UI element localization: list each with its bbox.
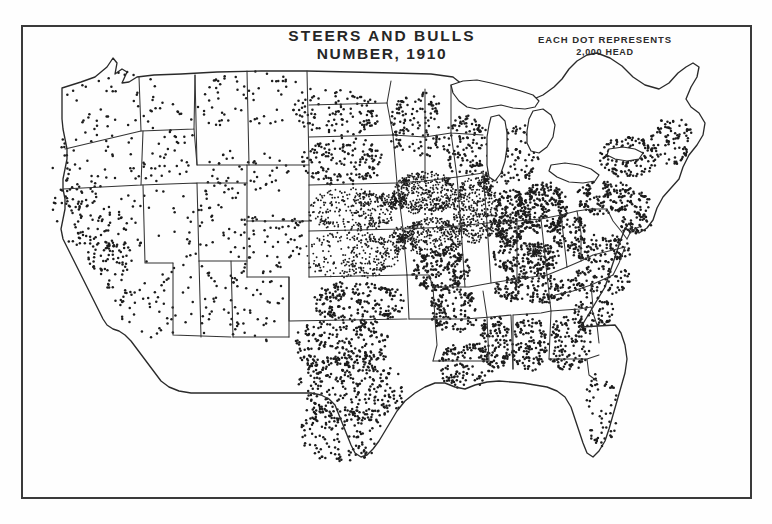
density-dot [464,314,467,317]
density-dot [521,265,524,268]
density-dot [590,380,593,383]
density-dot [521,207,524,210]
density-dot [395,245,397,247]
density-dot [621,280,624,283]
density-dot [476,225,478,227]
density-dot [245,287,248,290]
density-dot [277,265,280,268]
density-dot [578,270,581,273]
density-dot [461,157,464,160]
density-dot [504,209,507,212]
density-dot [365,258,367,260]
density-dot [271,80,274,83]
density-dot [205,244,208,247]
density-dot [419,108,422,111]
density-dot [542,260,545,263]
density-dot [532,156,535,159]
density-dot [526,293,529,296]
density-dot [480,185,482,187]
density-dot [298,253,301,256]
density-dot [274,121,277,124]
density-dot [579,328,582,331]
density-dot [108,254,111,256]
density-dot [558,350,561,353]
density-dot [439,273,442,276]
density-dot [189,254,192,256]
density-dot [471,192,473,194]
density-dot [528,250,530,252]
density-dot [467,368,470,371]
density-dot [575,304,578,307]
density-dot [378,259,380,261]
density-dot [472,139,475,142]
density-dot [509,268,512,271]
density-dot [643,170,646,173]
density-dot [517,343,520,346]
density-dot [544,225,547,228]
density-dot [513,243,516,246]
density-dot [601,276,604,279]
density-dot [386,221,388,223]
density-dot [538,263,541,266]
density-dot [475,214,477,216]
density-dot [327,312,330,315]
density-dot [435,273,438,276]
density-dot [324,438,327,441]
density-dot [370,215,372,217]
density-dot [367,172,370,175]
density-dot [430,101,433,104]
density-dot [88,113,91,116]
density-dot [344,271,346,273]
density-dot [512,189,515,192]
density-dot [143,165,146,168]
density-dot [503,339,506,342]
density-dot [556,222,559,225]
density-dot [362,178,365,181]
density-dot [325,218,327,220]
density-dot [329,202,331,204]
density-dot [393,264,395,266]
density-dot [72,90,75,93]
density-dot [620,170,623,173]
density-dot [636,216,639,219]
density-dot [605,240,608,243]
density-dot [568,247,571,250]
density-dot [550,275,553,278]
density-dot [362,292,365,295]
density-dot [459,381,462,384]
density-dot [484,345,487,348]
density-dot [411,123,414,126]
density-dot [358,349,361,352]
density-dot [358,411,361,414]
density-dot [329,114,332,117]
density-dot [518,191,521,194]
density-dot [536,156,539,159]
density-dot [353,96,356,99]
density-dot [134,177,137,180]
density-dot [436,260,439,263]
density-dot [443,352,446,355]
density-dot [615,244,618,247]
density-dot [660,127,663,129]
density-dot [349,112,352,115]
density-dot [614,168,617,171]
density-dot [278,262,281,265]
density-dot [368,355,371,358]
density-dot [496,181,498,183]
density-dot [94,182,97,185]
density-dot [298,120,301,123]
density-dot [474,379,477,382]
density-dot [449,237,451,239]
density-dot [367,366,370,369]
density-dot [243,309,246,312]
density-dot [331,427,334,430]
density-dot [539,298,542,301]
density-dot [364,446,367,449]
density-dot [454,191,456,193]
density-dot [456,217,458,219]
density-dot [386,336,389,339]
density-dot [450,204,452,206]
density-dot [609,434,612,437]
density-dot [610,284,613,287]
density-dot [421,108,424,111]
